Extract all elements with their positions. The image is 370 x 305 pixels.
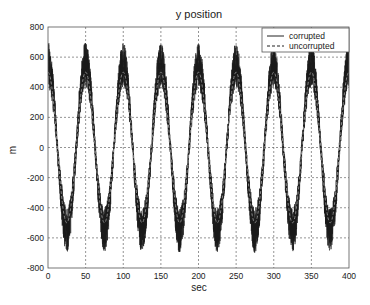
legend-label-corrupted: corrupted — [289, 31, 325, 41]
y-tick-label: 400 — [30, 82, 44, 92]
y-tick-label: -800 — [27, 263, 44, 273]
x-tick-label: 150 — [154, 271, 168, 281]
y-tick-label: -400 — [27, 203, 44, 213]
x-tick-label: 0 — [46, 271, 51, 281]
x-tick-label: 200 — [191, 271, 205, 281]
x-tick-label: 400 — [342, 271, 356, 281]
y-tick-label: 0 — [39, 143, 44, 153]
y-tick-label: -600 — [27, 233, 44, 243]
y-tick-label: -200 — [27, 173, 44, 183]
plot-area: 050100150200250300350400 -800-600-400-20… — [27, 22, 356, 281]
x-tick-label: 300 — [267, 271, 281, 281]
y-tick-label: 600 — [30, 52, 44, 62]
x-tick-label: 50 — [81, 271, 91, 281]
y-tick-label: 200 — [30, 112, 44, 122]
legend: corrupted uncorrupted — [262, 28, 349, 52]
y-axis-label: m — [7, 146, 18, 154]
x-tick-label: 100 — [116, 271, 130, 281]
x-tick-label: 250 — [229, 271, 243, 281]
y-tick-label: 800 — [30, 22, 44, 32]
x-axis-label: sec — [191, 282, 207, 293]
x-tick-label: 350 — [304, 271, 318, 281]
chart-title: y position — [176, 8, 222, 20]
legend-label-uncorrupted: uncorrupted — [289, 41, 335, 51]
chart-figure: y position 050100150200250300350400 -800… — [0, 0, 370, 305]
